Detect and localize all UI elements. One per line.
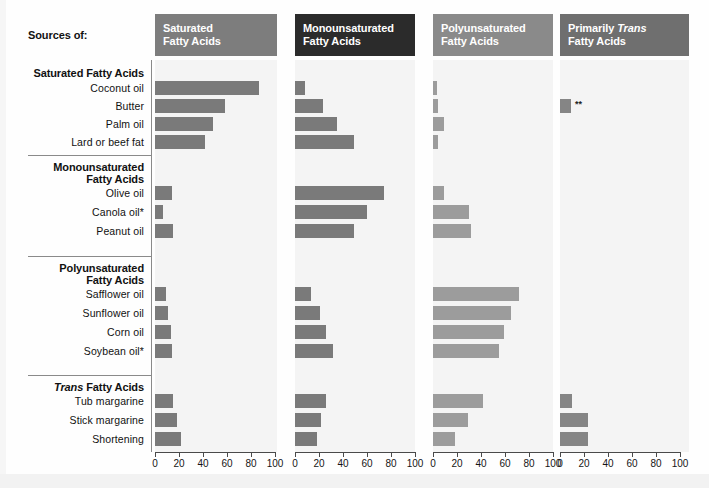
bar	[295, 224, 354, 238]
group-separator-0	[28, 155, 152, 156]
bar	[295, 344, 333, 358]
row-label-palm-oil: Palm oil	[0, 118, 144, 130]
axis-tick-label: 20	[571, 458, 597, 469]
panel-header-monounsaturated: MonounsaturatedFatty Acids	[295, 14, 415, 56]
bar	[433, 186, 444, 200]
axis-tick-label: 40	[330, 458, 356, 469]
bar	[155, 135, 205, 149]
row-label-tub-margarine: Tub margarine	[0, 395, 144, 407]
axis-tick	[203, 452, 204, 457]
bar	[433, 135, 438, 149]
row-label-peanut-oil: Peanut oil	[0, 225, 144, 237]
row-label-shortening: Shortening	[0, 433, 144, 445]
axis-tick-label: 0	[420, 458, 446, 469]
bar	[155, 306, 168, 320]
bar	[433, 287, 519, 301]
bar	[295, 413, 321, 427]
row-label-safflower-oil: Safflower oil	[0, 288, 144, 300]
axis-tick	[505, 452, 506, 457]
axis-tick-label: 40	[468, 458, 494, 469]
group-heading-saturated-group: Saturated Fatty Acids	[0, 67, 144, 79]
axis-tick	[227, 452, 228, 457]
axis-tick-label: 80	[378, 458, 404, 469]
axis-tick-label: 20	[444, 458, 470, 469]
panel-body-primarily-trans	[560, 60, 689, 452]
axis-tick	[155, 452, 156, 457]
panel-header-saturated: SaturatedFatty Acids	[155, 14, 277, 56]
axis-tick	[319, 452, 320, 457]
bar	[295, 99, 323, 113]
bar	[433, 117, 444, 131]
axis-tick-label: 60	[619, 458, 645, 469]
bar	[295, 205, 367, 219]
axis-tick	[481, 452, 482, 457]
bar	[433, 205, 469, 219]
axis-tick	[553, 452, 554, 457]
axis-tick	[275, 452, 276, 457]
bar	[295, 306, 320, 320]
row-label-canola-oil: Canola oil*	[0, 206, 144, 218]
sources-title: Sources of:	[28, 29, 87, 41]
footnote-marker: **	[575, 100, 582, 108]
row-label-column: Sources of: Saturated Fatty AcidsCoconut…	[0, 0, 152, 488]
group-heading-trans-group: Trans Fatty Acids	[0, 381, 144, 393]
axis-tick	[415, 452, 416, 457]
bar	[433, 224, 471, 238]
bar	[155, 81, 259, 95]
bar	[155, 344, 172, 358]
axis-tick	[367, 452, 368, 457]
group-heading-monounsaturated-group: MonounsaturatedFatty Acids	[0, 161, 144, 185]
axis-tick	[608, 452, 609, 457]
x-axis-panel-saturated: 020406080100	[155, 452, 275, 474]
row-label-coconut-oil: Coconut oil	[0, 82, 144, 94]
axis-tick-label: 80	[238, 458, 264, 469]
bar	[433, 432, 455, 446]
axis-tick	[584, 452, 585, 457]
row-label-corn-oil: Corn oil	[0, 326, 144, 338]
bar	[155, 413, 177, 427]
group-heading-polyunsaturated-group: PolyunsaturatedFatty Acids	[0, 262, 144, 286]
bar	[155, 325, 171, 339]
axis-tick-label: 60	[214, 458, 240, 469]
group-heading-italic: Trans	[54, 381, 83, 393]
group-separator-2	[28, 375, 152, 376]
bar	[433, 344, 499, 358]
x-axis-panel-monounsaturated: 020406080100	[295, 452, 415, 474]
axis-tick	[680, 452, 681, 457]
bar	[155, 394, 173, 408]
axis-tick-label: 40	[190, 458, 216, 469]
bar	[433, 394, 483, 408]
bar	[295, 117, 337, 131]
bar	[560, 432, 588, 446]
bar	[295, 186, 384, 200]
axis-tick-label: 20	[306, 458, 332, 469]
bar	[295, 135, 354, 149]
bar	[433, 306, 511, 320]
bar	[155, 205, 163, 219]
axis-tick	[560, 452, 561, 457]
axis-tick	[343, 452, 344, 457]
axis-tick-label: 0	[547, 458, 573, 469]
bar	[295, 432, 317, 446]
bar	[155, 287, 166, 301]
x-axis-panel-polyunsaturated: 020406080100	[433, 452, 553, 474]
footer-band	[0, 474, 709, 488]
bar	[295, 81, 305, 95]
row-label-sunflower-oil: Sunflower oil	[0, 307, 144, 319]
bar	[155, 224, 173, 238]
axis-tick-label: 0	[142, 458, 168, 469]
axis-tick-label: 20	[166, 458, 192, 469]
bar	[155, 432, 181, 446]
axis-tick	[251, 452, 252, 457]
axis-tick-label: 100	[667, 458, 693, 469]
label-column-rule	[151, 60, 152, 452]
axis-line	[560, 452, 680, 453]
panel-header-primarily-trans: Primarily TransFatty Acids	[560, 14, 689, 56]
x-axis-panel-primarily-trans: 020406080100	[560, 452, 680, 474]
axis-tick	[295, 452, 296, 457]
bar	[155, 117, 213, 131]
group-separator-1	[28, 256, 152, 257]
axis-tick-label: 60	[354, 458, 380, 469]
axis-tick	[433, 452, 434, 457]
bar	[433, 99, 438, 113]
